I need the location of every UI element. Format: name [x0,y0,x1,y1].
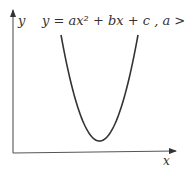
parabola-curve [61,35,138,141]
y-axis-label: y [17,13,26,28]
parabola-diagram: y x y = ax² + bx + c , a > 0 [0,0,185,175]
x-axis [13,151,176,153]
equation-label: y = ax² + bx + c , a > 0 [41,13,185,28]
x-axis-label: x [163,154,170,168]
